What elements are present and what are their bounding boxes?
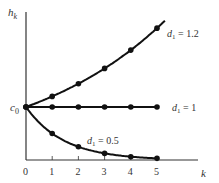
- annotation-d1-1: d1 = 1: [172, 102, 196, 115]
- data-point: [128, 47, 134, 53]
- data-point: [102, 66, 108, 72]
- x-tick-label: 1: [49, 166, 54, 177]
- chart: 012345 hk k c0 d1 = 1.2 d1 = 1 d1 = 0.5: [0, 0, 219, 183]
- x-tick-label: 0: [23, 166, 28, 177]
- data-point: [102, 151, 108, 157]
- data-point: [154, 156, 160, 162]
- x-tick-labels: 012345: [23, 166, 159, 177]
- x-tick-label: 3: [102, 166, 107, 177]
- data-point: [76, 104, 82, 110]
- y-axis-label: hk: [8, 6, 18, 21]
- data-point: [76, 81, 82, 87]
- x-tick-label: 2: [75, 166, 80, 177]
- data-point: [154, 104, 160, 110]
- data-point: [76, 144, 82, 150]
- c0-label: c0: [10, 101, 19, 116]
- x-tick-label: 5: [154, 166, 159, 177]
- annotation-d1-0.5: d1 = 0.5: [87, 135, 119, 148]
- data-point: [102, 104, 108, 110]
- data-point: [49, 131, 55, 137]
- x-tick-label: 4: [128, 166, 133, 177]
- data-point: [23, 104, 29, 110]
- series-line: [26, 21, 165, 107]
- series-line: [26, 107, 157, 158]
- data-point: [128, 154, 134, 160]
- data-point: [49, 94, 55, 100]
- data-point: [154, 25, 160, 31]
- annotation-d1-1.2: d1 = 1.2: [167, 28, 199, 41]
- data-point: [49, 104, 55, 110]
- x-axis-label: k: [201, 167, 207, 179]
- data-point: [128, 104, 134, 110]
